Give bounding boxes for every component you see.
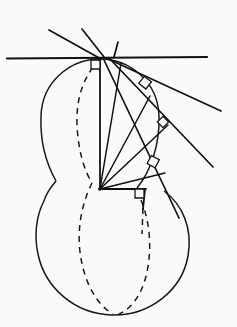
right-angle-lower-right [147, 156, 159, 168]
upper-sphere-equator-dashed [77, 59, 100, 183]
top-tangency-point-dot [98, 57, 101, 60]
right-angle-base-right [135, 189, 144, 198]
geometry-figure-canvas: Two tangent spheres with common tangent … [0, 0, 237, 327]
vertical-drop-dashed [142, 208, 143, 234]
lower-sphere-equator-dashed-right [117, 200, 150, 315]
center-ray-c [100, 125, 168, 189]
lower-sphere-outline [36, 191, 189, 315]
ray-upper-midleft [82, 29, 104, 57]
ray-lower-right-1 [106, 58, 221, 111]
spheres-group [36, 59, 189, 315]
upper-sphere-outline [41, 59, 100, 181]
right-angle-at-top-vertex [91, 60, 100, 69]
sphere-neck-left [44, 181, 56, 201]
center-ray-d [100, 173, 165, 189]
construction-center-dot [98, 187, 102, 191]
ray-upper-steep [114, 42, 118, 57]
ray-lower-right-2 [109, 58, 213, 167]
lower-sphere-equator-dashed [79, 183, 113, 314]
geometry-svg: Two tangent spheres with common tangent … [0, 0, 237, 327]
